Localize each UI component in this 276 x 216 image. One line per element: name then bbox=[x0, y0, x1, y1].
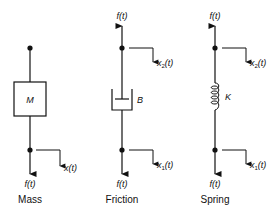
spring-top-displacement-label: x2(t) bbox=[249, 58, 266, 69]
mass-displacement-arrow bbox=[36, 150, 60, 166]
spring-bottom-displacement-label: x1(t) bbox=[249, 160, 266, 171]
spring-element: f(t) x2(t) K x1(t) f(t) Spring bbox=[201, 11, 267, 205]
spring-bottom-displacement-arrow bbox=[222, 150, 246, 164]
friction-element: f(t) x2(t) B x1(t) f(t) Friction bbox=[106, 11, 174, 205]
mass-force-label: f(t) bbox=[25, 179, 36, 189]
friction-bottom-displacement-arrow bbox=[129, 150, 153, 164]
spring-top-force-label: f(t) bbox=[210, 11, 221, 21]
friction-bottom-displacement-label: x1(t) bbox=[156, 160, 173, 171]
mass-caption: Mass bbox=[18, 194, 42, 205]
spring-top-displacement-arrow bbox=[222, 48, 246, 62]
friction-top-displacement-label: x2(t) bbox=[156, 58, 173, 69]
friction-top-force-label: f(t) bbox=[117, 11, 128, 21]
spring-coil bbox=[211, 83, 219, 110]
friction-bottom-force-label: f(t) bbox=[117, 179, 128, 189]
mechanical-elements-diagram: M x(t) f(t) Mass f(t) x2(t) B x1(t) f(t)… bbox=[0, 0, 276, 216]
friction-parameter-label: B bbox=[137, 95, 143, 105]
mass-displacement-label: x(t) bbox=[63, 163, 77, 173]
spring-bottom-force-label: f(t) bbox=[210, 179, 221, 189]
spring-parameter-label: K bbox=[225, 92, 232, 102]
friction-caption: Friction bbox=[106, 194, 139, 205]
mass-element: M x(t) f(t) Mass bbox=[14, 45, 77, 205]
spring-caption: Spring bbox=[201, 194, 230, 205]
mass-parameter-label: M bbox=[26, 95, 34, 105]
friction-top-displacement-arrow bbox=[129, 48, 153, 62]
